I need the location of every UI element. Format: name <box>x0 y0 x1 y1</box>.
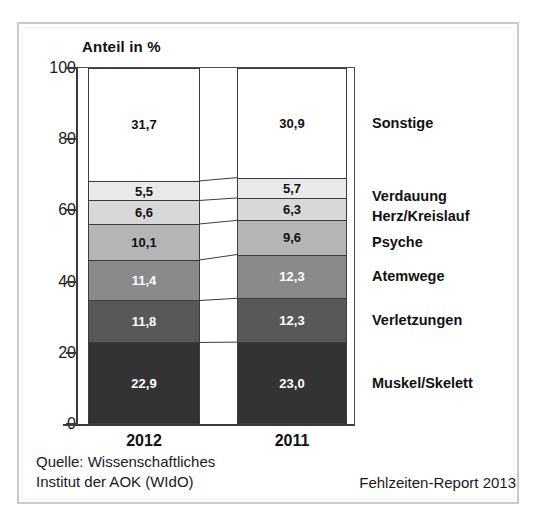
x-category-2012: 2012 <box>88 432 200 450</box>
legend-item-herz-kreislauf[interactable]: Herz/Kreislauf <box>372 208 470 224</box>
bar-segment-value: 10,1 <box>131 235 156 250</box>
bar-segment-value: 31,7 <box>131 117 156 132</box>
bar-segment-value: 23,0 <box>279 376 304 391</box>
stacked-bar-2012[interactable]: 22,911,811,410,16,65,531,7 <box>88 68 200 424</box>
bar-segment-value: 6,6 <box>135 205 153 220</box>
bar-segment-value: 5,5 <box>135 184 153 199</box>
legend-item-sonstige[interactable]: Sonstige <box>372 115 433 131</box>
bar-segment[interactable]: 12,3 <box>237 255 347 299</box>
legend-item-muskel-skelett[interactable]: Muskel/Skelett <box>372 375 473 391</box>
plot-frame-right <box>354 67 355 425</box>
bar-segment-value: 11,4 <box>132 273 157 288</box>
y-tick-mark <box>66 281 76 283</box>
bar-segment[interactable]: 6,3 <box>237 198 347 220</box>
bar-segment[interactable]: 5,7 <box>237 178 347 198</box>
bar-segment-value: 22,9 <box>131 376 156 391</box>
bar-segment[interactable]: 12,3 <box>237 298 347 342</box>
bar-segment[interactable]: 11,4 <box>88 260 200 301</box>
bar-segment[interactable]: 10,1 <box>88 224 200 260</box>
x-axis-line <box>63 424 355 426</box>
bar-segment-value: 5,7 <box>283 181 301 196</box>
bar-segment[interactable]: 11,8 <box>88 300 200 342</box>
bar-segment-value: 30,9 <box>279 116 304 131</box>
bar-segment[interactable]: 30,9 <box>237 68 347 178</box>
source-line-2: Institut der AOK (WIdO) <box>36 472 215 492</box>
y-tick-mark <box>66 352 76 354</box>
bar-segment-value: 9,6 <box>283 230 301 245</box>
bar-segment-value: 12,3 <box>279 313 304 328</box>
bar-segment-value: 12,3 <box>279 269 304 284</box>
report-credit: Fehlzeiten-Report 2013 <box>359 474 516 491</box>
legend-item-verletzungen[interactable]: Verletzungen <box>372 312 462 328</box>
bar-segment-value: 6,3 <box>283 202 301 217</box>
legend-item-psyche[interactable]: Psyche <box>372 234 423 250</box>
bar-segment[interactable]: 9,6 <box>237 220 347 254</box>
x-category-2011: 2011 <box>237 432 347 450</box>
legend-item-verdauung[interactable]: Verdauung <box>372 188 447 204</box>
bar-segment[interactable]: 23,0 <box>237 342 347 424</box>
bar-segment[interactable]: 6,6 <box>88 200 200 223</box>
bar-segment[interactable]: 31,7 <box>88 68 200 181</box>
y-tick-mark <box>66 209 76 211</box>
y-tick-mark <box>66 138 76 140</box>
source-note: Quelle: Wissenschaftliches Institut der … <box>36 452 215 493</box>
chart: Anteil in % 020406080100 22,911,811,410,… <box>0 0 540 531</box>
bar-segment[interactable]: 22,9 <box>88 342 200 424</box>
bar-segment-value: 11,8 <box>132 314 157 329</box>
y-axis-line <box>76 67 78 425</box>
y-tick-mark <box>66 67 76 69</box>
stacked-bar-2011[interactable]: 23,012,312,39,66,35,730,9 <box>237 68 347 424</box>
legend-item-atemwege[interactable]: Atemwege <box>372 268 445 284</box>
bar-segment[interactable]: 5,5 <box>88 181 200 201</box>
y-axis-title: Anteil in % <box>82 38 161 55</box>
source-line-1: Quelle: Wissenschaftliches <box>36 452 215 472</box>
